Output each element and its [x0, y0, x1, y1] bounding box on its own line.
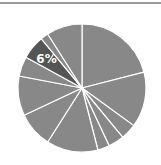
pie-chart: 6% — [0, 0, 161, 165]
pie-slices — [18, 24, 146, 152]
pie-labels: 6% — [36, 52, 56, 66]
slice-percent-label: 6% — [36, 52, 56, 66]
chart-frame: 6% — [0, 0, 161, 165]
